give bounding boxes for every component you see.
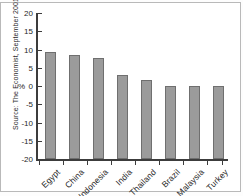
y-axis-tick bbox=[38, 31, 42, 32]
x-axis-tick bbox=[159, 161, 160, 165]
x-axis-tick bbox=[87, 161, 88, 165]
source-caption: Source: The Economist, September 2001 bbox=[10, 6, 22, 130]
y-axis-title: % bbox=[18, 82, 25, 91]
x-axis-tick bbox=[207, 161, 208, 165]
bar bbox=[141, 80, 152, 159]
y-axis-tick bbox=[38, 104, 42, 105]
bar bbox=[165, 86, 176, 159]
x-axis-tick bbox=[135, 161, 136, 165]
y-axis-tick-label: -20 bbox=[21, 155, 33, 164]
bar bbox=[45, 52, 56, 159]
y-axis-tick bbox=[38, 141, 42, 142]
y-axis-tick-label: 15 bbox=[24, 27, 33, 36]
y-axis-tick bbox=[38, 159, 42, 160]
y-axis-tick-label: -15 bbox=[21, 136, 33, 145]
y-axis-tick bbox=[38, 68, 42, 69]
plot-area: % 20151050-5-10-15-20EgyptChinaIndonesia… bbox=[36, 13, 228, 161]
x-axis-tick bbox=[222, 161, 223, 165]
y-axis-tick bbox=[38, 123, 42, 124]
chart-figure: Source: The Economist, September 2001 % … bbox=[0, 0, 243, 196]
y-axis-tick-label: 10 bbox=[24, 45, 33, 54]
y-axis-tick bbox=[38, 13, 42, 14]
x-axis-line bbox=[36, 159, 228, 161]
y-axis-line bbox=[36, 13, 38, 161]
bar bbox=[93, 58, 104, 159]
y-axis-tick bbox=[38, 50, 42, 51]
x-axis-tick bbox=[39, 161, 40, 165]
x-axis-tick bbox=[183, 161, 184, 165]
y-axis-tick-label: -10 bbox=[21, 118, 33, 127]
x-axis-tick bbox=[63, 161, 64, 165]
bar bbox=[189, 86, 200, 159]
y-axis-tick-label: 0 bbox=[29, 82, 33, 91]
x-axis-tick bbox=[111, 161, 112, 165]
bar bbox=[117, 75, 128, 159]
y-axis-tick-label: 20 bbox=[24, 9, 33, 18]
bar bbox=[69, 55, 80, 159]
y-axis-tick-label: -5 bbox=[26, 100, 33, 109]
y-axis-tick bbox=[38, 86, 42, 87]
y-axis-tick-label: 5 bbox=[29, 63, 33, 72]
bar bbox=[213, 86, 224, 159]
